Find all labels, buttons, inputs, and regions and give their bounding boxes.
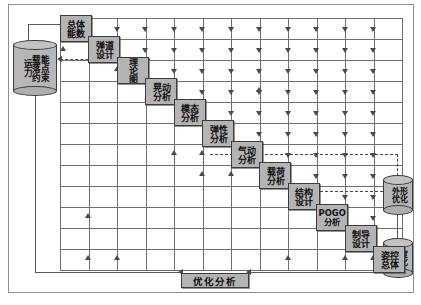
process-node-n4[interactable]: 动析 晃分: [145, 78, 177, 105]
link-left-spine-down: [28, 24, 29, 40]
process-node-label: 理论图: [128, 57, 137, 84]
flow-arrow-down: [285, 90, 291, 95]
process-node-label: 导计 制设: [352, 230, 370, 248]
flow-arrow-down: [370, 48, 376, 53]
flow-arrow-down: [199, 90, 205, 95]
flow-arrow-down: [256, 48, 262, 53]
grid-line-vertical: [146, 18, 147, 270]
flow-arrow-down: [285, 69, 291, 74]
flow-arrow-down: [142, 27, 148, 32]
flow-arrow-up: [85, 255, 91, 260]
flow-arrow-down: [342, 111, 348, 116]
process-node-label: 态析 模分: [181, 104, 199, 122]
flow-arrow-up: [256, 87, 262, 92]
flow-arrow-down: [313, 27, 319, 32]
process-node-n1[interactable]: 体数 总能: [60, 15, 92, 42]
process-node-label: 荷析 载分: [266, 167, 284, 185]
arrow-dashed-into-capability: [57, 56, 62, 62]
flow-arrow-down: [228, 27, 234, 32]
datastore-shape-optimization[interactable]: 形化 外优: [383, 175, 413, 215]
flow-arrow-up: [85, 213, 91, 218]
process-node-label: 动析 晃分: [152, 83, 170, 101]
link-top-to-left-spine: [28, 24, 64, 25]
process-node-label: 动析 气分: [238, 146, 256, 164]
dsm-diagram-canvas: 能点束 载落约 运力 形化 外优 度化 精优 体数 总能道计 弹设理论图动析 晃…: [0, 0, 421, 305]
link-capability-down: [35, 96, 36, 272]
flow-arrow-down: [313, 69, 319, 74]
process-node-label: 性析 弹分: [209, 125, 227, 143]
flow-arrow-down: [114, 27, 120, 32]
flow-arrow-down: [370, 216, 376, 221]
flow-arrow-down: [171, 27, 177, 32]
flow-arrow-down: [313, 174, 319, 179]
flow-arrow-down: [285, 111, 291, 116]
flow-arrow-down: [370, 132, 376, 137]
flow-arrow-down: [313, 111, 319, 116]
flow-arrow-down: [370, 111, 376, 116]
datastore-capability[interactable]: 能点束 载落约 运力: [13, 40, 57, 96]
process-node-label: POGO 分析: [319, 209, 346, 228]
flow-arrow-down: [370, 27, 376, 32]
flow-arrow-up: [228, 171, 234, 176]
grid-line-vertical: [317, 18, 318, 270]
flow-arrow-down: [285, 27, 291, 32]
optimization-analysis-bar[interactable]: 优化分析: [181, 273, 249, 288]
flow-arrow-down: [256, 111, 262, 116]
flow-arrow-down: [142, 48, 148, 53]
flow-arrow-down: [342, 90, 348, 95]
process-node-label: 道计 弹设: [95, 41, 113, 59]
process-node-n11[interactable]: 导计 制设: [345, 225, 377, 252]
flow-arrow-down: [199, 27, 205, 32]
process-node-n10[interactable]: POGO 分析: [316, 204, 348, 231]
process-node-label: 体数 总能: [67, 20, 85, 38]
flow-arrow-down: [342, 48, 348, 53]
flow-arrow-down: [342, 174, 348, 179]
link-shape-to-accuracy: [397, 215, 398, 239]
process-node-n9[interactable]: 构计 结设: [288, 183, 320, 210]
process-node-n6[interactable]: 性析 弹分: [202, 120, 234, 147]
flow-arrow-down: [342, 195, 348, 200]
flow-arrow-down: [370, 174, 376, 179]
flow-arrow-down: [256, 69, 262, 74]
flow-arrow-down: [228, 48, 234, 53]
flow-arrow-down: [342, 132, 348, 137]
process-node-label: 控体 姿总: [380, 251, 398, 269]
flow-arrow-down: [285, 48, 291, 53]
link-bottom-rail-left: [35, 272, 181, 273]
arrow-up-into-ballistic: [60, 46, 66, 51]
flow-arrow-down: [370, 195, 376, 200]
flow-arrow-down: [199, 48, 205, 53]
grid-line-vertical: [288, 18, 289, 270]
flow-arrow-down: [313, 48, 319, 53]
process-node-n7[interactable]: 动析 气分: [231, 141, 263, 168]
datastore-capability-label: 能点束 载落约 运力: [13, 46, 57, 90]
flow-arrow-down: [342, 27, 348, 32]
process-node-label: 构计 结设: [295, 188, 313, 206]
flow-arrow-down: [228, 111, 234, 116]
grid-line-horizontal: [60, 270, 402, 271]
process-node-n12[interactable]: 控体 姿总: [373, 246, 405, 273]
process-node-n3[interactable]: 理论图: [117, 57, 149, 84]
grid-line-vertical: [174, 18, 175, 270]
flow-arrow-up: [342, 255, 348, 260]
flow-arrow-up: [114, 255, 120, 260]
flow-arrow-down: [370, 90, 376, 95]
flow-arrow-down: [171, 69, 177, 74]
process-node-n5[interactable]: 态析 模分: [174, 99, 206, 126]
flow-arrow-down: [256, 132, 262, 137]
flow-arrow-down: [342, 69, 348, 74]
flow-arrow-down: [228, 90, 234, 95]
process-node-n8[interactable]: 荷析 载分: [259, 162, 291, 189]
flow-arrow-up: [285, 255, 291, 260]
flow-arrow-up: [171, 150, 177, 155]
flow-arrow-down: [285, 132, 291, 137]
flow-arrow-up: [199, 150, 205, 155]
flow-arrow-up: [199, 171, 205, 176]
grid-line-vertical: [402, 18, 403, 270]
process-node-n2[interactable]: 道计 弹设: [88, 36, 120, 63]
flow-arrow-down: [199, 69, 205, 74]
flow-arrow-down: [256, 27, 262, 32]
flow-arrow-down: [228, 69, 234, 74]
dashed-shape-opt-feed: [397, 154, 398, 176]
flow-arrow-down: [313, 132, 319, 137]
